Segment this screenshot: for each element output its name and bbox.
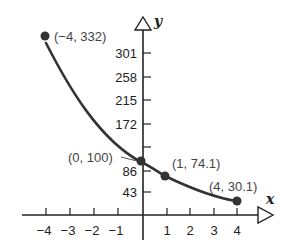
data-point (137, 157, 146, 166)
y-tick-label: 86 (123, 164, 137, 179)
y-axis: 301 258 215 172 86 43 y (115, 13, 163, 240)
x-tick-label: 1 (163, 223, 170, 238)
point-label: (1, 74.1) (172, 156, 220, 171)
y-tick-label: 301 (115, 46, 137, 61)
point-label: (0, 100) (68, 150, 113, 165)
x-tick-label: −2 (85, 223, 100, 238)
point-label: (4, 30.1) (209, 179, 257, 194)
x-tick-label: 2 (186, 223, 193, 238)
y-tick-label: 172 (115, 117, 137, 132)
chart: −4 −3 −2 −1 1 2 3 4 x 301 258 215 172 86… (0, 0, 295, 250)
x-tick-label: −4 (37, 223, 52, 238)
y-tick-label: 258 (115, 70, 137, 85)
y-tick-label: 43 (123, 185, 137, 200)
x-tick-label: −1 (109, 223, 124, 238)
y-tick-label: 215 (115, 93, 137, 108)
data-point (161, 172, 170, 181)
data-point (41, 32, 50, 41)
point-label: (−4, 332) (54, 29, 106, 44)
x-axis-arrow-icon (258, 207, 273, 223)
y-axis-arrow-icon (135, 17, 151, 30)
data-point (233, 197, 242, 206)
x-axis-label: x (265, 191, 275, 207)
x-tick-label: 3 (210, 223, 217, 238)
y-axis-label: y (153, 13, 163, 29)
x-tick-label: −3 (61, 223, 76, 238)
exponential-curve (46, 43, 237, 201)
x-tick-label: 4 (233, 223, 240, 238)
